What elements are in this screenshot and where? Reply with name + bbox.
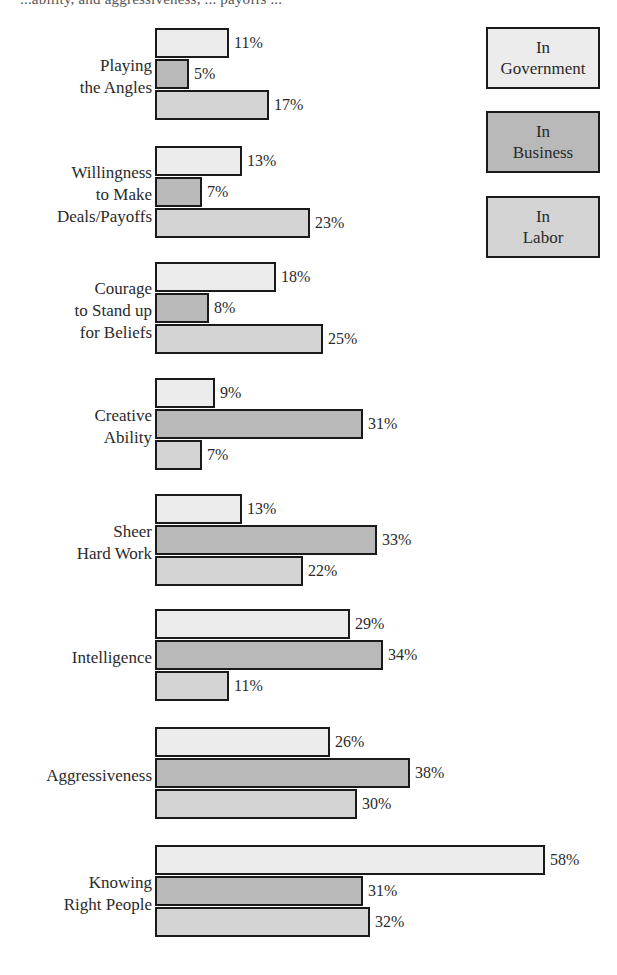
value-label: 32% xyxy=(375,913,404,931)
value-label: 23% xyxy=(315,214,344,232)
bar-group: Intelligence29%34%11% xyxy=(0,609,617,702)
bar-gov xyxy=(155,845,545,875)
bar-lab xyxy=(155,440,202,470)
bar-lab xyxy=(155,671,229,701)
bar-group: Courage to Stand up for Beliefs18%8%25% xyxy=(0,262,617,355)
legend-label-line2: Labor xyxy=(523,227,564,248)
bar-lab xyxy=(155,90,269,120)
value-label: 17% xyxy=(274,96,303,114)
value-label: 7% xyxy=(207,183,228,201)
value-label: 38% xyxy=(415,764,444,782)
value-label: 9% xyxy=(220,384,241,402)
bar-bus xyxy=(155,293,209,323)
bar-gov xyxy=(155,146,242,176)
bar-bus xyxy=(155,177,202,207)
value-label: 34% xyxy=(388,646,417,664)
legend-label-line1: In xyxy=(513,121,573,142)
category-label: Courage to Stand up for Beliefs xyxy=(75,278,152,344)
value-label: 29% xyxy=(355,615,384,633)
value-label: 11% xyxy=(234,34,263,52)
bar-lab xyxy=(155,556,303,586)
value-label: 8% xyxy=(214,299,235,317)
bar-gov xyxy=(155,727,330,757)
value-label: 7% xyxy=(207,446,228,464)
bar-gov xyxy=(155,494,242,524)
bar-lab xyxy=(155,789,357,819)
bar-bus xyxy=(155,59,189,89)
value-label: 31% xyxy=(368,882,397,900)
legend-label-line1: In xyxy=(523,206,564,227)
cut-off-header-text: ...ability, and aggressiveness, ... payo… xyxy=(20,0,282,8)
category-label: Knowing Right People xyxy=(64,872,152,916)
bar-bus xyxy=(155,409,363,439)
category-label: Sheer Hard Work xyxy=(77,521,152,565)
value-label: 18% xyxy=(281,268,310,286)
value-label: 26% xyxy=(335,733,364,751)
category-label: Aggressiveness xyxy=(46,765,152,787)
value-label: 11% xyxy=(234,677,263,695)
bar-group: Creative Ability9%31%7% xyxy=(0,378,617,471)
value-label: 5% xyxy=(194,65,215,83)
value-label: 25% xyxy=(328,330,357,348)
bar-lab xyxy=(155,324,323,354)
legend-item-gov: InGovernment xyxy=(486,27,600,89)
category-label: Creative Ability xyxy=(94,405,152,449)
legend-item-bus: InBusiness xyxy=(486,111,600,173)
legend-label-line2: Government xyxy=(501,58,586,79)
bar-gov xyxy=(155,609,350,639)
bar-gov xyxy=(155,378,215,408)
category-label: Willingness to Make Deals/Payoffs xyxy=(57,162,152,228)
legend-item-lab: InLabor xyxy=(486,196,600,258)
category-label: Intelligence xyxy=(72,647,152,669)
bar-bus xyxy=(155,640,383,670)
bar-group: Aggressiveness26%38%30% xyxy=(0,727,617,820)
value-label: 30% xyxy=(362,795,391,813)
bar-group: Sheer Hard Work13%33%22% xyxy=(0,494,617,587)
legend-label-line2: Business xyxy=(513,142,573,163)
bar-bus xyxy=(155,876,363,906)
value-label: 22% xyxy=(308,562,337,580)
bar-bus xyxy=(155,758,410,788)
bar-gov xyxy=(155,28,229,58)
bar-lab xyxy=(155,208,310,238)
category-label: Playing the Angles xyxy=(80,55,152,99)
value-label: 31% xyxy=(368,415,397,433)
bar-lab xyxy=(155,907,370,937)
bar-bus xyxy=(155,525,377,555)
value-label: 13% xyxy=(247,152,276,170)
legend-label-line1: In xyxy=(501,37,586,58)
bar-group: Knowing Right People58%31%32% xyxy=(0,845,617,938)
value-label: 58% xyxy=(550,851,579,869)
value-label: 33% xyxy=(382,531,411,549)
value-label: 13% xyxy=(247,500,276,518)
bar-gov xyxy=(155,262,276,292)
